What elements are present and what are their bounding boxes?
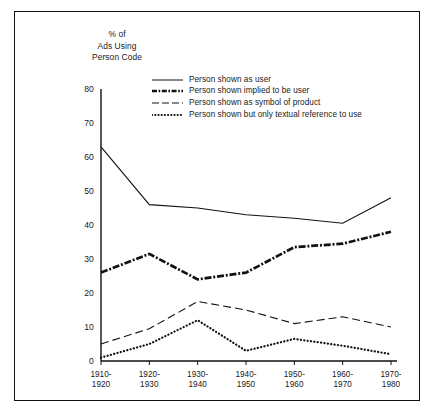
plot-area: 01020304050607080 1910-19201920-19301930… xyxy=(15,12,421,402)
x-tick-label: 1920-1930 xyxy=(122,370,176,391)
x-tick-label: 1930-1940 xyxy=(171,370,225,391)
y-tick-label: 20 xyxy=(68,289,94,298)
series-line-0 xyxy=(101,147,391,224)
y-tick-label: 10 xyxy=(68,323,94,332)
plot-svg xyxy=(15,12,421,402)
x-tick-label: 1950-1960 xyxy=(267,370,321,391)
series-line-1 xyxy=(101,232,391,280)
x-tick-label: 1970-1980 xyxy=(364,370,418,391)
x-tick-label: 1940-1950 xyxy=(219,370,273,391)
y-tick-label: 30 xyxy=(68,255,94,264)
x-tick-label: 1910-1920 xyxy=(74,370,128,391)
series-line-3 xyxy=(101,320,391,357)
y-tick-label: 0 xyxy=(68,357,94,366)
y-tick-label: 40 xyxy=(68,221,94,230)
y-tick-label: 70 xyxy=(68,119,94,128)
series-lines xyxy=(101,147,391,358)
y-tick-label: 60 xyxy=(68,153,94,162)
axis-lines xyxy=(101,89,397,361)
figure-frame: % of Ads Using Person Code Person shown … xyxy=(14,11,420,401)
x-tick-label: 1960-1970 xyxy=(316,370,370,391)
y-tick-label: 80 xyxy=(68,85,94,94)
y-tick-label: 50 xyxy=(68,187,94,196)
series-line-2 xyxy=(101,302,391,345)
